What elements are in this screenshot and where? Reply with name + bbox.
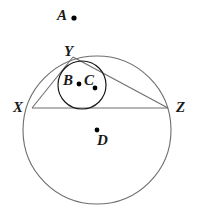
- geometry-canvas: [0, 0, 198, 219]
- point-label-b: B: [63, 73, 73, 88]
- point-marker-a: [71, 15, 76, 20]
- geometry-diagram: A Y B C X Z D: [0, 0, 198, 219]
- point-label-x: X: [13, 100, 23, 115]
- point-label-c: C: [84, 73, 94, 88]
- point-label-d: D: [97, 133, 108, 148]
- point-label-y: Y: [64, 44, 73, 59]
- point-marker-b: [77, 82, 82, 87]
- point-label-a: A: [57, 8, 67, 23]
- point-label-z: Z: [176, 100, 185, 115]
